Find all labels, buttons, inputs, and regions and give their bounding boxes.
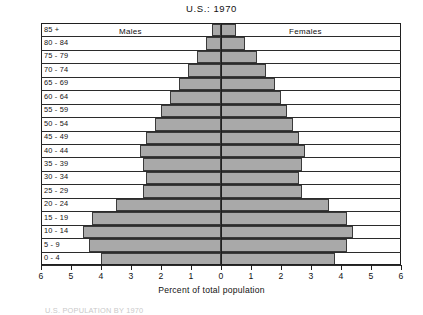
x-tick-mark (101, 265, 102, 270)
x-tick-mark (71, 265, 72, 270)
x-tick-label: 3 (301, 271, 321, 281)
x-tick-mark (41, 265, 42, 270)
x-tick-label: 5 (361, 271, 381, 281)
bar-females-70-74 (221, 64, 266, 76)
x-tick-label: 3 (121, 271, 141, 281)
x-tick-label: 1 (181, 271, 201, 281)
bar-females-55-59 (221, 105, 287, 117)
age-group-label: 65 - 69 (44, 78, 68, 87)
bar-females-25-29 (221, 185, 302, 197)
bar-females-5-9 (221, 239, 347, 251)
bar-males-80-84 (206, 37, 221, 49)
x-tick-mark (281, 265, 282, 270)
bar-males-30-34 (146, 172, 221, 184)
age-group-label: 55 - 59 (44, 105, 68, 114)
age-group-label: 45 - 49 (44, 132, 68, 141)
bar-males-85+ (212, 24, 221, 36)
legend-label-males: Males (119, 27, 142, 36)
age-group-label: 35 - 39 (44, 159, 68, 168)
bar-males-65-69 (179, 78, 221, 90)
bar-males-35-39 (143, 158, 221, 170)
bar-males-10-14 (83, 226, 221, 238)
bar-males-60-64 (170, 91, 221, 103)
bar-males-50-54 (155, 118, 221, 130)
x-tick-label: 5 (61, 271, 81, 281)
x-tick-label: 4 (91, 271, 111, 281)
age-group-label: 20 - 24 (44, 199, 68, 208)
figure-caption: U.S. POPULATION BY 1970 (45, 306, 415, 315)
x-tick-label: 2 (151, 271, 171, 281)
age-group-label: 85 + (44, 25, 59, 34)
bar-females-15-19 (221, 212, 347, 224)
x-tick-mark (251, 265, 252, 270)
bar-females-30-34 (221, 172, 299, 184)
bar-females-60-64 (221, 91, 281, 103)
x-tick-mark (311, 265, 312, 270)
x-tick-label: 6 (391, 271, 411, 281)
bar-females-45-49 (221, 132, 299, 144)
bar-males-25-29 (143, 185, 221, 197)
x-tick-mark (371, 265, 372, 270)
page-title: U.S.: 1970 (0, 3, 423, 14)
x-tick-label: 2 (271, 271, 291, 281)
bar-females-65-69 (221, 78, 275, 90)
age-group-label: 10 - 14 (44, 226, 68, 235)
population-pyramid-plot: 85 +80 - 8475 - 7970 - 7465 - 6960 - 645… (41, 23, 401, 265)
x-tick-label: 4 (331, 271, 351, 281)
age-group-label: 40 - 44 (44, 146, 68, 155)
bar-females-40-44 (221, 145, 305, 157)
age-group-label: 15 - 19 (44, 213, 68, 222)
x-tick-mark (191, 265, 192, 270)
x-tick-label: 6 (31, 271, 51, 281)
bar-males-40-44 (140, 145, 221, 157)
age-group-label: 25 - 29 (44, 186, 68, 195)
age-group-label: 5 - 9 (44, 240, 60, 249)
age-group-label: 50 - 54 (44, 119, 68, 128)
bar-males-5-9 (89, 239, 221, 251)
bar-males-20-24 (116, 199, 221, 211)
age-group-label: 70 - 74 (44, 65, 68, 74)
bar-males-70-74 (188, 64, 221, 76)
bar-females-75-79 (221, 51, 257, 63)
age-group-label: 80 - 84 (44, 38, 68, 47)
center-axis-line (221, 23, 222, 265)
age-group-label: 0 - 4 (44, 253, 60, 262)
bar-males-15-19 (92, 212, 221, 224)
x-axis-title: Percent of total population (0, 285, 423, 295)
bar-females-20-24 (221, 199, 329, 211)
x-tick-mark (221, 265, 222, 270)
bar-females-50-54 (221, 118, 293, 130)
age-group-label: 30 - 34 (44, 172, 68, 181)
bar-females-85+ (221, 24, 236, 36)
age-group-label: 75 - 79 (44, 51, 68, 60)
age-group-label: 60 - 64 (44, 92, 68, 101)
bar-females-35-39 (221, 158, 302, 170)
x-tick-mark (341, 265, 342, 270)
bar-males-55-59 (161, 105, 221, 117)
bar-males-75-79 (197, 51, 221, 63)
x-tick-label: 1 (241, 271, 261, 281)
x-tick-mark (161, 265, 162, 270)
bar-females-80-84 (221, 37, 245, 49)
bar-females-10-14 (221, 226, 353, 238)
x-tick-mark (131, 265, 132, 270)
x-tick-label: 0 (211, 271, 231, 281)
legend-label-females: Females (289, 27, 322, 36)
bar-males-45-49 (146, 132, 221, 144)
x-tick-mark (401, 265, 402, 270)
